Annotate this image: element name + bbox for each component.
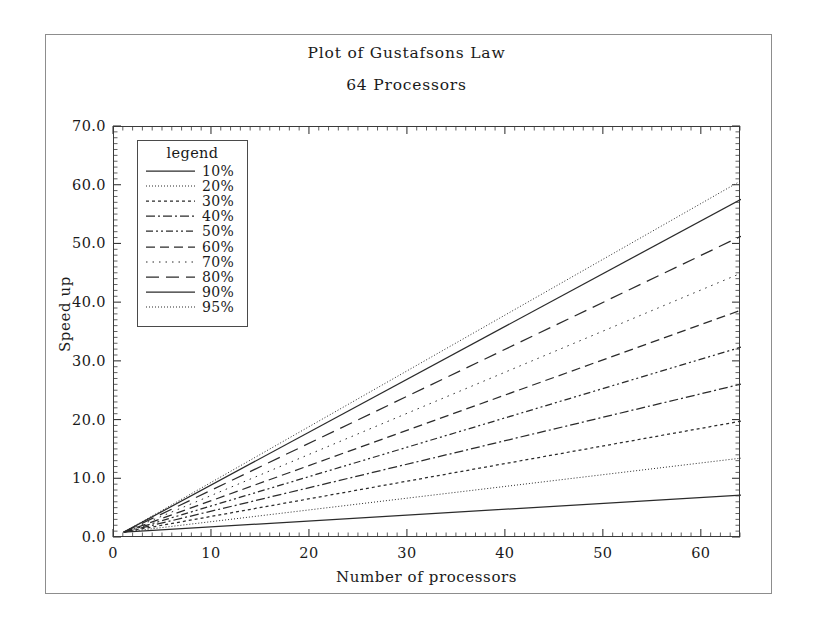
legend-entry-label: 20% bbox=[198, 178, 234, 194]
legend-entry-label: 70% bbox=[198, 254, 234, 270]
x-tick-label: 30 bbox=[397, 545, 416, 561]
chart-title: Plot of Gustafsons Law bbox=[0, 44, 813, 62]
y-tick-label: 0.0 bbox=[44, 529, 106, 545]
legend-entry-label: 60% bbox=[198, 239, 234, 255]
series-line-50 bbox=[124, 347, 741, 532]
legend-entry-label: 40% bbox=[198, 208, 234, 224]
y-tick-label: 30.0 bbox=[44, 353, 106, 369]
legend-entry-label: 90% bbox=[198, 284, 234, 300]
legend-line-swatch bbox=[143, 286, 198, 298]
legend-entry-label: 50% bbox=[198, 223, 234, 239]
legend-entry-90: 90% bbox=[138, 285, 247, 300]
legend-entry-10: 10% bbox=[138, 163, 247, 178]
series-line-10 bbox=[124, 495, 741, 532]
legend: legend 10%20%30%40%50%60%70%80%90%95% bbox=[137, 140, 248, 327]
series-line-30 bbox=[124, 421, 741, 532]
x-tick-label: 50 bbox=[593, 545, 612, 561]
legend-line-swatch bbox=[143, 256, 198, 268]
legend-line-swatch bbox=[143, 195, 198, 207]
legend-line-swatch bbox=[143, 225, 198, 237]
legend-entry-70: 70% bbox=[138, 254, 247, 269]
series-line-60 bbox=[124, 310, 741, 532]
legend-title: legend bbox=[138, 145, 247, 161]
legend-entries: 10%20%30%40%50%60%70%80%90%95% bbox=[138, 163, 247, 315]
y-axis-label: Speed up bbox=[56, 244, 74, 384]
series-line-20 bbox=[124, 458, 741, 532]
y-tick-label: 10.0 bbox=[44, 470, 106, 486]
x-tick-label: 40 bbox=[495, 545, 514, 561]
series-line-40 bbox=[124, 384, 741, 532]
legend-entry-30: 30% bbox=[138, 193, 247, 208]
y-tick-label: 70.0 bbox=[44, 118, 106, 134]
legend-entry-40: 40% bbox=[138, 209, 247, 224]
legend-line-swatch bbox=[143, 241, 198, 253]
legend-line-swatch bbox=[143, 271, 198, 283]
legend-line-swatch bbox=[143, 180, 198, 192]
y-tick-label: 60.0 bbox=[44, 177, 106, 193]
x-tick-label: 0 bbox=[108, 545, 118, 561]
x-tick-label: 10 bbox=[201, 545, 220, 561]
legend-entry-20: 20% bbox=[138, 178, 247, 193]
legend-entry-60: 60% bbox=[138, 239, 247, 254]
legend-entry-label: 10% bbox=[198, 163, 234, 179]
chart-subtitle: 64 Processors bbox=[0, 76, 813, 94]
legend-entry-label: 80% bbox=[198, 269, 234, 285]
x-tick-label: 60 bbox=[691, 545, 710, 561]
legend-entry-label: 30% bbox=[198, 193, 234, 209]
y-tick-label: 50.0 bbox=[44, 235, 106, 251]
y-tick-label: 20.0 bbox=[44, 412, 106, 428]
legend-entry-label: 95% bbox=[198, 299, 234, 315]
legend-line-swatch bbox=[143, 165, 198, 177]
legend-line-swatch bbox=[143, 301, 198, 313]
legend-entry-95: 95% bbox=[138, 300, 247, 315]
legend-entry-80: 80% bbox=[138, 269, 247, 284]
legend-line-swatch bbox=[143, 210, 198, 222]
x-axis-label: Number of processors bbox=[113, 568, 740, 586]
x-tick-label: 20 bbox=[299, 545, 318, 561]
legend-entry-50: 50% bbox=[138, 224, 247, 239]
y-tick-label: 40.0 bbox=[44, 294, 106, 310]
